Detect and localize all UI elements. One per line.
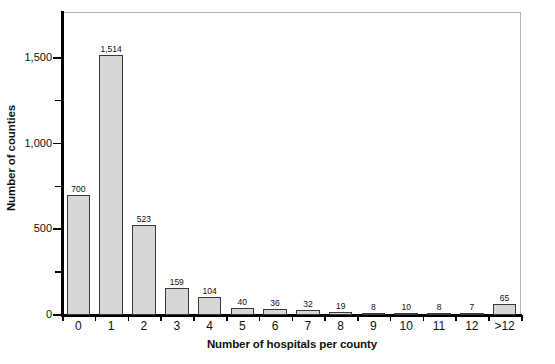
- bar-value-label: 65: [481, 294, 529, 303]
- bar-value-label: 104: [186, 287, 234, 296]
- bar-value-label: 1,514: [87, 45, 135, 54]
- bar: [329, 312, 353, 315]
- bar: [427, 313, 451, 315]
- bar: [394, 313, 418, 315]
- bar-value-label: 159: [153, 278, 201, 287]
- bar-chart-figure: Number of counties 05001,0001,500 7001,5…: [0, 0, 555, 364]
- bar-value-label: 7: [448, 303, 496, 312]
- plot-area-frame: [62, 12, 521, 315]
- y-tick-label: 0: [4, 309, 52, 320]
- x-tick: [521, 315, 523, 321]
- x-axis-title: Number of hospitals per county: [62, 338, 522, 350]
- bar: [362, 313, 386, 315]
- bar: [67, 195, 91, 315]
- bar-value-label: 523: [120, 215, 168, 224]
- bar: [263, 309, 287, 315]
- x-tick-label: >12: [481, 320, 529, 333]
- bar: [493, 304, 517, 315]
- bar: [460, 313, 484, 315]
- bar: [132, 225, 156, 315]
- bar-value-label: 700: [54, 185, 102, 194]
- bar: [231, 308, 255, 315]
- y-tick-label: 1,500: [4, 52, 52, 63]
- bar: [99, 55, 123, 315]
- y-tick-label: 1,000: [4, 138, 52, 149]
- y-axis-line: [61, 11, 64, 317]
- y-tick-label: 500: [4, 223, 52, 234]
- bar: [296, 310, 320, 315]
- y-axis-tick-labels: 05001,0001,500: [0, 0, 52, 364]
